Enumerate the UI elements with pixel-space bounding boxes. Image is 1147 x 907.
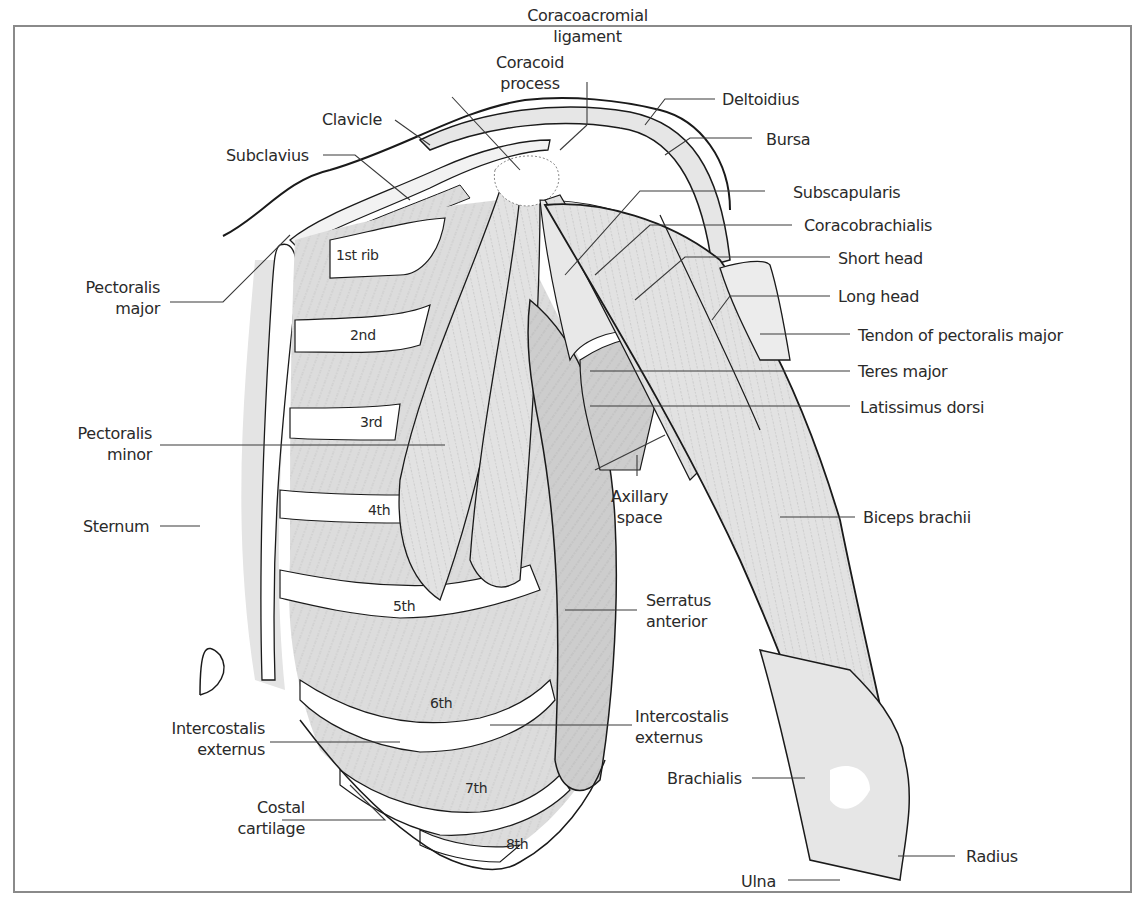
label-costal-cartilage: Costal cartilage	[215, 797, 305, 839]
label-subscapularis: Subscapularis	[793, 182, 900, 203]
label-sternum: Sternum	[83, 516, 149, 537]
label-bursa: Bursa	[766, 129, 810, 150]
label-text: Pectoralis major	[40, 277, 160, 319]
label-coracobrachialis: Coracobrachialis	[804, 215, 932, 236]
label-subclavius: Subclavius	[226, 145, 309, 166]
label-clavicle: Clavicle	[322, 109, 382, 130]
label-axillary-space: Axillary space	[602, 486, 677, 528]
rib-label-4: 4th	[368, 500, 390, 521]
label-latissimus-dorsi: Latissimus dorsi	[860, 397, 984, 418]
label-text: Coracoid process	[470, 52, 590, 94]
label-deltoidius: Deltoidius	[722, 89, 799, 110]
label-text: Intercostalis externus	[140, 718, 265, 760]
rib-label-6: 6th	[430, 693, 452, 714]
rib-label-5: 5th	[393, 596, 415, 617]
forearm-shape	[760, 650, 909, 880]
label-ulna: Ulna	[741, 871, 776, 892]
label-coracoid-process: Coracoid process	[470, 52, 590, 94]
label-intercostalis-externus-right: Intercostalis externus	[635, 706, 729, 748]
label-text: Costal cartilage	[215, 797, 305, 839]
label-short-head: Short head	[838, 248, 923, 269]
label-teres-major: Teres major	[858, 361, 947, 382]
label-text: Axillary space	[602, 486, 677, 528]
label-brachialis: Brachialis	[667, 768, 742, 789]
rib-label-3: 3rd	[360, 412, 382, 433]
label-text: Intercostalis externus	[635, 706, 729, 748]
label-radius: Radius	[966, 846, 1018, 867]
rib-label-2: 2nd	[350, 325, 376, 346]
rib-label-8: 8th	[506, 834, 528, 855]
label-text: Serratus anterior	[646, 590, 711, 632]
label-text: Pectoralis minor	[40, 423, 152, 465]
label-coracoacromial-ligament: Coracoacromial ligament	[525, 5, 650, 47]
anatomy-illustration	[0, 0, 1147, 907]
label-serratus-anterior: Serratus anterior	[646, 590, 711, 632]
label-long-head: Long head	[838, 286, 919, 307]
label-pectoralis-minor: Pectoralis minor	[40, 423, 152, 465]
label-intercostalis-externus-left: Intercostalis externus	[140, 718, 265, 760]
label-text: Coracoacromial ligament	[525, 5, 650, 47]
label-tendon-pectoralis-major: Tendon of pectoralis major	[858, 325, 1063, 346]
label-pectoralis-major: Pectoralis major	[40, 277, 160, 319]
rib-label-1: 1st rib	[336, 245, 379, 266]
rib-label-7: 7th	[465, 778, 487, 799]
label-biceps-brachii: Biceps brachii	[863, 507, 971, 528]
